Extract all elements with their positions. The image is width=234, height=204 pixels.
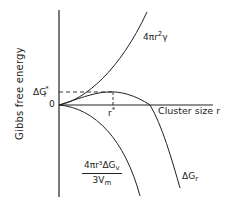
volume-term-label: 4πr³ΔGv 3Vm [82,160,122,187]
surface-term-label: 4πr2γ [143,31,168,42]
surface-term-curve [59,12,147,105]
total-energy-label: ΔGr [182,172,198,183]
x-axis-label: Cluster size r [158,106,220,116]
origin-label: 0 [49,100,55,109]
critical-radius-label: r* [108,107,115,118]
y-axis-label: Gibbs free energy [14,47,25,140]
critical-energy-label: ΔG*r [33,86,47,99]
